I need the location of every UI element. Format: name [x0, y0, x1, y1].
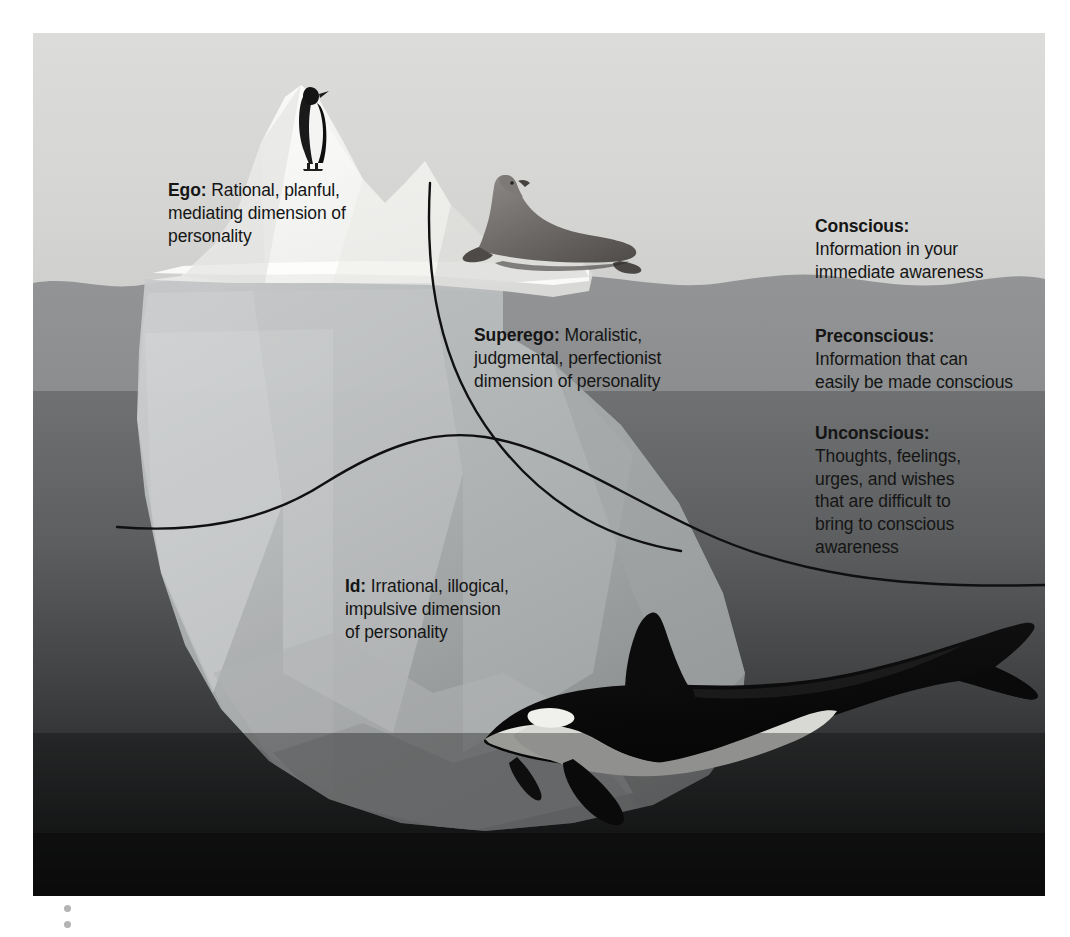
- label-unconscious-term: Unconscious:: [815, 423, 930, 443]
- label-conscious: Conscious:Information in your immediate …: [815, 215, 1045, 283]
- label-id-definition: Irrational, illogical, impulsive dimensi…: [345, 576, 509, 642]
- label-superego-term: Superego:: [474, 325, 560, 345]
- label-id: Id: Irrational, illogical, impulsive dim…: [345, 575, 595, 643]
- iceberg-figure: Ego: Rational, planful, mediating dimens…: [33, 33, 1045, 896]
- label-conscious-definition: Information in your immediate awareness: [815, 239, 983, 282]
- label-ego: Ego: Rational, planful, mediating dimens…: [168, 179, 418, 247]
- label-preconscious: Preconscious:Information that can easily…: [815, 325, 1045, 393]
- label-ego-term: Ego:: [168, 180, 206, 200]
- label-superego: Superego: Moralistic, judgmental, perfec…: [474, 324, 746, 392]
- label-unconscious: Unconscious:Thoughts, feelings, urges, a…: [815, 422, 1025, 559]
- label-preconscious-definition: Information that can easily be made cons…: [815, 349, 1013, 392]
- label-unconscious-definition: Thoughts, feelings, urges, and wishes th…: [815, 446, 961, 557]
- bullet-dot-1: [64, 905, 71, 912]
- label-preconscious-term: Preconscious:: [815, 326, 934, 346]
- bullet-dot-2: [64, 921, 71, 928]
- label-conscious-term: Conscious:: [815, 216, 909, 236]
- label-id-term: Id:: [345, 576, 366, 596]
